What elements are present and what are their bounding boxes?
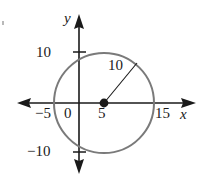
y-axis-down-arrowhead: [74, 159, 84, 174]
x-axis-left-arrowhead: [17, 98, 31, 108]
x-axis-label: x: [180, 107, 187, 122]
y-axis-label: y: [64, 11, 71, 26]
y-tick-label-10: 10: [36, 45, 51, 60]
y-tick-label-negative-10: −10: [27, 144, 50, 159]
x-tick-label-0: 0: [64, 106, 72, 121]
x-tick-label-15: 15: [155, 106, 170, 121]
x-tick-label-negative-5: −5: [35, 106, 51, 121]
radius-label: 10: [108, 58, 123, 73]
x-tick-label-5: 5: [98, 106, 106, 121]
circle-graph-figure: 10 −10 −5 0 5 15 x y 10: [0, 0, 200, 175]
y-axis-up-arrowhead: [74, 14, 84, 29]
scan-speck: [2, 21, 4, 25]
